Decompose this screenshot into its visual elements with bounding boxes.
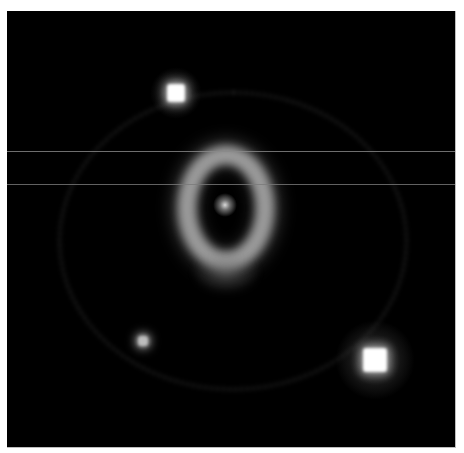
scanline-1 [7,184,455,185]
central-source [211,191,239,219]
faint-left-star [138,336,148,346]
scanline-0 [7,151,455,152]
astronomical-image: Supernova remnant with bright central ri… [7,11,456,448]
ring-diffuse-tail [191,250,261,295]
upper-left-star [167,84,185,102]
lower-right-star [363,348,387,372]
